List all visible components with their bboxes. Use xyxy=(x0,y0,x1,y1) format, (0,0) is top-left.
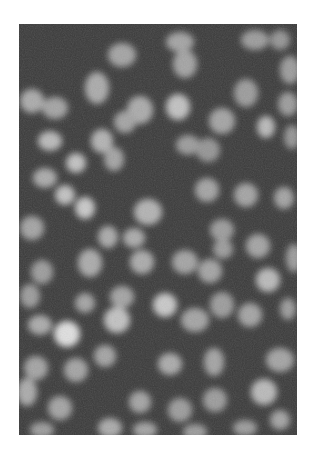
nuclei-canvas xyxy=(19,24,297,435)
microscopy-image xyxy=(19,24,297,435)
noise-overlay xyxy=(19,24,297,435)
